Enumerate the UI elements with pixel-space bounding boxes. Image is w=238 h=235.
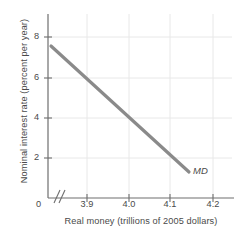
y-tick-label-4: 4: [21, 112, 39, 122]
x-tick-label-3-9: 3.9: [72, 199, 102, 209]
x-axis-title: Real money (trillions of 2005 dollars): [48, 216, 234, 226]
origin-label: 0: [36, 199, 41, 209]
money-demand-chart: Nominal interest rate (percent per year): [0, 0, 238, 235]
y-tick-label-2: 2: [21, 152, 39, 162]
series-label-md: MD: [193, 165, 208, 176]
horizontal-gridlines: [48, 37, 232, 158]
money-demand-curve: [51, 46, 189, 172]
x-tick-label-4-1: 4.1: [155, 199, 185, 209]
y-tick-label-6: 6: [21, 72, 39, 82]
x-tick-label-4-2: 4.2: [198, 199, 228, 209]
y-tick-label-8: 8: [21, 31, 39, 41]
axis-break-icon: [54, 190, 65, 203]
x-tick-label-4-0: 4.0: [114, 199, 144, 209]
